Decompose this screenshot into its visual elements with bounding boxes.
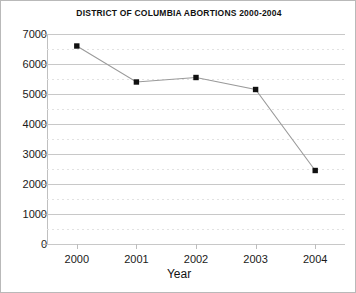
y-tick-label: 4000	[5, 118, 47, 130]
data-point-marker	[253, 87, 258, 92]
y-tick-label: 3000	[5, 148, 47, 160]
x-tick-label: 2000	[65, 253, 89, 265]
data-point-marker	[74, 43, 79, 48]
x-tick-mark	[77, 244, 78, 249]
y-tick-label: 6000	[5, 58, 47, 70]
y-tick-label: 2000	[5, 178, 47, 190]
data-point-marker	[193, 75, 198, 80]
y-tick-label: 7000	[5, 28, 47, 40]
data-point-marker	[313, 168, 318, 173]
chart-container: DISTRICT OF COLUMBIA ABORTIONS 2000-2004…	[0, 0, 356, 293]
y-tick-label: 1000	[5, 208, 47, 220]
x-tick-mark	[196, 244, 197, 249]
series-polyline	[77, 46, 315, 171]
series-markers	[74, 43, 318, 173]
x-tick-mark	[256, 244, 257, 249]
plot-area	[47, 34, 345, 244]
y-axis-labels: 01000200030004000500060007000	[1, 1, 47, 293]
y-tick-label: 5000	[5, 88, 47, 100]
data-series-line	[47, 34, 345, 244]
x-axis-title: Year	[1, 267, 356, 281]
x-tick-mark	[315, 244, 316, 249]
chart-title: DISTRICT OF COLUMBIA ABORTIONS 2000-2004	[1, 8, 356, 18]
x-tick-label: 2002	[184, 253, 208, 265]
data-point-marker	[134, 79, 139, 84]
x-tick-label: 2004	[303, 253, 327, 265]
x-tick-label: 2001	[124, 253, 148, 265]
x-tick-label: 2003	[243, 253, 267, 265]
y-tick-label: 0	[5, 238, 47, 250]
x-tick-mark	[136, 244, 137, 249]
